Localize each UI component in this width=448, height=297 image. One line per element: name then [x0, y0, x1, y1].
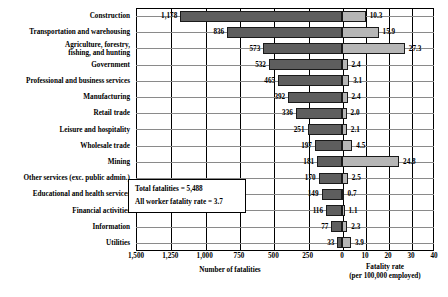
bar-fatality-rate [342, 156, 399, 167]
x-tick-rate-40: 40 [430, 252, 437, 261]
category-label-line: Construction [90, 12, 130, 20]
category-label-line: Mining [108, 158, 130, 166]
bar-fatality-rate [342, 205, 345, 216]
bar-fatality-rate [342, 92, 348, 103]
value-label-rate: 2.3 [351, 222, 360, 232]
category-label: Information [0, 223, 130, 231]
value-label-rate: 24.8 [403, 157, 416, 167]
x-tick-rate-20: 20 [384, 252, 391, 261]
bar-fatality-rate [342, 59, 348, 70]
bar-fatality-rate [342, 108, 347, 119]
category-label: Other services (exc. public admin.) [0, 174, 130, 182]
bar-fatality-rate [342, 173, 348, 184]
category-label-line: Information [92, 223, 130, 231]
category-label: Leisure and hospitality [0, 126, 130, 134]
category-label: Agriculture, forestry,fishing, and hunti… [0, 41, 130, 57]
bar-fatality-count [263, 43, 342, 54]
category-label-line: Professional and business services [26, 77, 130, 85]
value-label-count: 1,178 [136, 11, 177, 21]
category-label-line: Financial activities [72, 207, 130, 215]
fatalities-bar-chart: ConstructionTransportation and warehousi… [0, 0, 448, 297]
value-label-rate: 1.1 [349, 206, 358, 216]
value-label-rate: 2.5 [352, 173, 361, 183]
category-label-line: Utilities [106, 239, 130, 247]
x-tick-count-1250: 1,250 [162, 252, 178, 261]
category-label-line: Transportation and warehousing [29, 28, 130, 36]
value-label-count: 465 [136, 76, 275, 86]
left-axis-title: Number of fatalities [150, 266, 310, 275]
bar-fatality-rate [342, 237, 351, 248]
value-label-count: 197 [136, 141, 312, 151]
bar-fatality-count [315, 140, 342, 151]
category-label: Educational and health services [0, 190, 130, 198]
value-label-rate: 2.4 [352, 60, 361, 70]
bar-fatality-count [317, 156, 342, 167]
annotation-total-fatalities: Total fatalities = 5,488 [135, 183, 240, 196]
category-label-line: fishing, and hunting [68, 49, 130, 57]
bar-fatality-count [288, 92, 342, 103]
category-label: Manufacturing [0, 93, 130, 101]
bar-fatality-count [296, 108, 342, 119]
value-label-count: 392 [136, 92, 285, 102]
category-label: Wholesale trade [0, 142, 130, 150]
x-tick-rate-30: 30 [407, 252, 414, 261]
category-label: Transportation and warehousing [0, 28, 130, 36]
x-tick-count-750: 750 [234, 252, 245, 261]
value-label-rate: 0.7 [348, 189, 357, 199]
right-axis-title-main: Fatality rate [366, 263, 404, 271]
category-label-line: Educational and health services [33, 190, 130, 198]
value-label-rate: 4.5 [356, 141, 365, 151]
value-label-count: 77 [136, 222, 328, 232]
category-label: Mining [0, 158, 130, 166]
bar-rows: 1,17810.383615.957327.35322.44653.13922.… [136, 8, 434, 251]
right-axis-title: Fatality rate(per 100,000 employed) [330, 263, 440, 281]
category-label-line: Other services (exc. public admin.) [24, 174, 130, 182]
x-tick-rate-10: 10 [361, 252, 368, 261]
bar-fatality-rate [342, 140, 352, 151]
category-label-line: Retail trade [93, 109, 130, 117]
bar-fatality-count [326, 205, 342, 216]
value-label-count: 532 [136, 60, 266, 70]
value-label-count: 251 [136, 125, 305, 135]
value-label-count: 33 [136, 238, 334, 248]
x-tick-count-500: 500 [268, 252, 279, 261]
value-label-count: 573 [136, 44, 260, 54]
value-label-rate: 3.9 [355, 238, 364, 248]
value-label-rate: 2.4 [352, 92, 361, 102]
category-label: Professional and business services [0, 77, 130, 85]
category-label-line: Government [91, 61, 130, 69]
bar-fatality-count [180, 11, 342, 22]
value-label-count: 181 [136, 157, 314, 167]
category-label-line: Leisure and hospitality [59, 126, 130, 134]
bar-fatality-rate [342, 189, 344, 200]
value-label-rate: 10.3 [370, 11, 383, 21]
summary-annotation-box: Total fatalities = 5,488 All worker fata… [128, 179, 246, 213]
bar-fatality-count [227, 27, 342, 38]
bar-row [136, 8, 434, 24]
category-label: Construction [0, 12, 130, 20]
value-label-rate: 27.3 [409, 44, 422, 54]
value-label-count: 336 [136, 108, 293, 118]
right-axis-title-units: (per 100,000 employed) [349, 272, 421, 280]
category-axis-labels: ConstructionTransportation and warehousi… [0, 8, 133, 251]
value-label-rate: 2.0 [351, 108, 360, 118]
bar-fatality-rate [342, 43, 405, 54]
value-label-rate: 3.1 [353, 76, 362, 86]
bar-fatality-rate [342, 11, 366, 22]
category-label-line: Manufacturing [83, 93, 130, 101]
category-label: Government [0, 61, 130, 69]
bar-fatality-count [322, 189, 342, 200]
value-label-rate: 15.9 [383, 27, 396, 37]
x-tick-count-1000: 1,000 [197, 252, 213, 261]
x-tick-count-250: 250 [302, 252, 313, 261]
category-label: Financial activities [0, 207, 130, 215]
bar-fatality-count [278, 75, 342, 86]
value-label-rate: 2.1 [351, 125, 360, 135]
bar-fatality-count [308, 124, 342, 135]
annotation-all-worker-rate: All worker fatality rate = 3.7 [135, 196, 240, 209]
category-label-line: Agriculture, forestry, [65, 41, 130, 49]
bar-fatality-rate [342, 221, 347, 232]
category-label-line: Wholesale trade [80, 142, 130, 150]
x-tick-count-0: 0 [340, 252, 344, 261]
value-label-count: 836 [136, 27, 224, 37]
